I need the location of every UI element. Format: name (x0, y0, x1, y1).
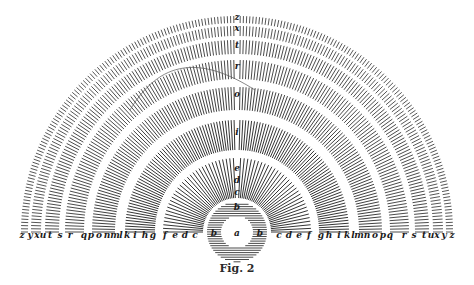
ring-tick (227, 60, 228, 79)
ring-tick (265, 91, 270, 113)
ring-tick (362, 95, 372, 105)
ring-tick (300, 75, 308, 92)
baseline-label-right: e (296, 230, 302, 240)
ring-tick (85, 114, 96, 123)
ring-tick (138, 40, 141, 46)
ring-tick (269, 43, 272, 57)
vertical-label: o (234, 89, 240, 99)
ring-tick (428, 144, 434, 147)
ring-tick (381, 173, 399, 180)
ring-tick (359, 220, 382, 222)
ring-tick (399, 152, 412, 158)
ring-tick (254, 61, 256, 80)
ring-tick (135, 42, 138, 48)
ring-tick (195, 20, 196, 27)
ring-tick (353, 87, 362, 98)
ring-tick (73, 132, 85, 139)
ring-tick (35, 156, 42, 158)
ring-tick (428, 184, 438, 186)
ring-tick (83, 80, 88, 85)
ring-tick (152, 44, 156, 53)
ring-tick (111, 160, 131, 172)
ring-tick (418, 124, 424, 128)
ring-tick (125, 223, 155, 225)
ring-tick (224, 26, 225, 36)
ring-tick (205, 18, 206, 25)
ring-tick (426, 178, 436, 181)
ring-tick (62, 152, 75, 158)
ring-tick (427, 181, 437, 183)
ring-tick (400, 97, 405, 101)
baseline-label-left: s (57, 230, 62, 240)
ring-tick (146, 36, 149, 42)
ring-tick (386, 127, 398, 135)
ring-tick (349, 82, 358, 93)
ring-tick (135, 70, 142, 82)
ring-tick (263, 42, 265, 56)
inner-label-left: b (211, 228, 217, 238)
ring-tick (186, 22, 188, 29)
ring-tick (146, 63, 153, 75)
ring-tick (300, 37, 303, 46)
ring-tick (32, 165, 39, 167)
ring-tick (221, 61, 223, 80)
ring-tick (34, 197, 44, 199)
ring-tick (351, 84, 360, 95)
ring-tick (248, 60, 249, 79)
ring-tick (281, 46, 284, 60)
ring-tick (379, 117, 390, 125)
ring-tick (227, 40, 228, 54)
ring-tick (137, 68, 144, 80)
ring-tick (305, 28, 307, 35)
ring-tick (158, 31, 161, 38)
ring-tick (50, 188, 64, 191)
ring-tick (67, 143, 79, 149)
ring-tick (26, 184, 33, 186)
baseline-label-left: h (142, 230, 149, 240)
ring-tick (78, 167, 96, 174)
ring-tick (218, 61, 220, 80)
ring-tick (228, 87, 229, 110)
ring-tick (370, 104, 380, 113)
ring-tick (432, 209, 442, 210)
ring-tick (432, 153, 439, 156)
ring-tick (208, 18, 209, 25)
ring-tick (148, 62, 154, 74)
ring-tick (432, 213, 442, 214)
ring-tick (434, 159, 441, 161)
ring-tick (157, 111, 170, 130)
ring-tick (231, 87, 232, 110)
ring-tick (440, 181, 447, 183)
ring-tick (79, 164, 96, 172)
ring-tick (65, 222, 84, 223)
ring-tick (255, 27, 256, 37)
ring-tick (417, 150, 426, 154)
ring-tick (241, 120, 243, 150)
ring-tick (376, 161, 393, 169)
ring-tick (430, 197, 440, 199)
ring-tick (298, 36, 301, 46)
ring-tick (143, 37, 146, 43)
ring-tick (278, 45, 281, 59)
ring-tick (286, 32, 288, 42)
ring-tick (260, 42, 262, 56)
ring-tick (76, 87, 81, 92)
ring-tick (23, 203, 30, 204)
ring-tick (81, 83, 86, 88)
ring-tick (92, 71, 97, 76)
ring-tick (184, 68, 190, 86)
ring-tick (412, 197, 426, 200)
ring-tick (65, 226, 84, 227)
ring-tick (272, 44, 275, 58)
ring-tick (152, 115, 166, 134)
ring-tick (37, 150, 43, 153)
ring-tick (74, 90, 79, 95)
ring-tick (265, 28, 266, 38)
ring-tick (169, 74, 177, 91)
ring-tick (221, 27, 222, 37)
ring-tick (84, 117, 95, 125)
baseline-label-right: r (402, 230, 408, 240)
ring-tick (73, 179, 91, 185)
ring-tick (443, 193, 450, 194)
ring-tick (112, 87, 121, 98)
